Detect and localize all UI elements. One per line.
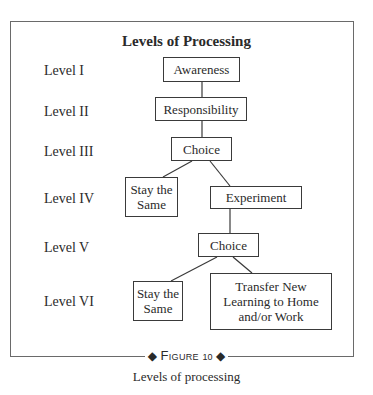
node-experiment-label: Experiment: [226, 190, 287, 205]
figure-number: 10: [202, 352, 212, 362]
node-stay-line1: Stay the: [130, 182, 172, 197]
diamond-ornament-icon: ◆: [216, 349, 225, 363]
node-choice-level-3: Choice: [171, 137, 232, 161]
node-transfer: Transfer New Learning to Home and/or Wor…: [210, 273, 332, 330]
node-awareness-label: Awareness: [174, 62, 230, 77]
node-transfer-line3: and/or Work: [239, 309, 304, 324]
node-transfer-line2: Learning to Home: [223, 294, 318, 309]
node-choice-label: Choice: [183, 142, 220, 157]
node-choice-label: Choice: [210, 238, 247, 253]
edge-choice-experiment: [210, 161, 230, 186]
diamond-ornament-icon: ◆: [148, 349, 157, 363]
figure-caption: Levels of processing: [0, 369, 373, 385]
node-responsibility-label: Responsibility: [163, 102, 238, 117]
edge-choice-stay: [163, 161, 192, 177]
node-responsibility: Responsibility: [155, 97, 247, 121]
node-transfer-line1: Transfer New: [235, 279, 306, 294]
node-stay-same-level-4: Stay the Same: [125, 177, 178, 217]
figure-label: ◆ Figure 10 ◆: [0, 347, 373, 366]
node-experiment: Experiment: [210, 186, 302, 209]
node-stay-line1: Stay the: [137, 286, 179, 301]
node-stay-line2: Same: [144, 301, 173, 316]
node-choice-level-5: Choice: [198, 233, 259, 257]
node-stay-same-level-6: Stay the Same: [133, 281, 183, 321]
node-awareness: Awareness: [163, 57, 240, 82]
node-stay-line2: Same: [137, 197, 166, 212]
figure-word: Figure: [161, 348, 199, 363]
edge-choice-transfer: [233, 257, 252, 273]
